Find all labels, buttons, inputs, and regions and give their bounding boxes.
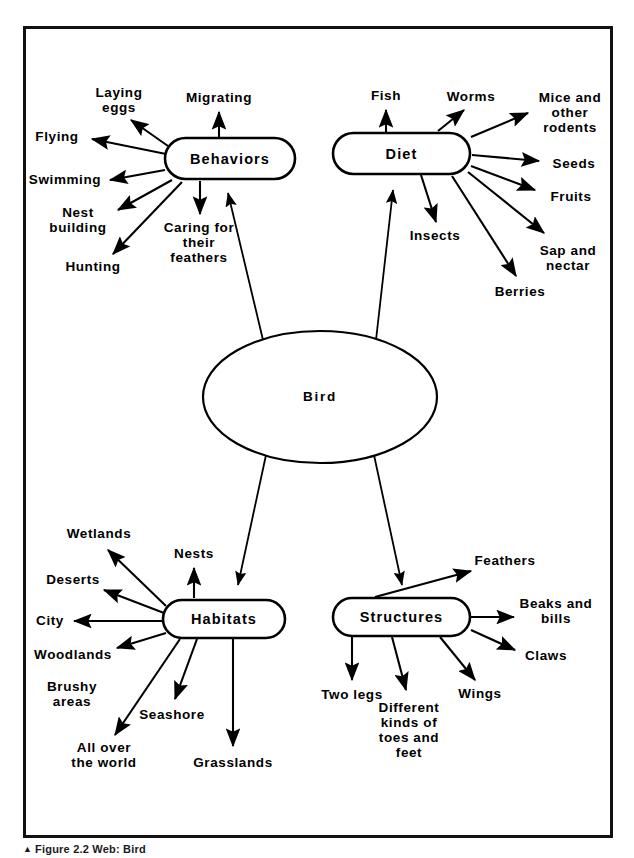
leaf-label-brushy: Brushy areas bbox=[47, 679, 97, 709]
branch-label-structures: Structures bbox=[360, 609, 444, 625]
leaf-label-feathers: Feathers bbox=[474, 553, 535, 568]
diagram-frame bbox=[23, 26, 613, 838]
figure-page: BirdBehaviorsLaying eggsMigratingFlyingS… bbox=[0, 0, 634, 858]
leaf-label-flying: Flying bbox=[35, 129, 78, 144]
leaf-label-city: City bbox=[36, 613, 64, 628]
leaf-label-nests: Nests bbox=[174, 546, 214, 561]
leaf-label-berries: Berries bbox=[495, 284, 546, 299]
branch-label-habitats: Habitats bbox=[191, 611, 257, 627]
leaf-label-all-over: All over the world bbox=[71, 740, 136, 770]
leaf-label-sap: Sap and nectar bbox=[540, 243, 597, 273]
leaf-label-seashore: Seashore bbox=[139, 707, 205, 722]
leaf-label-nest-building: Nest building bbox=[49, 205, 106, 235]
leaf-label-toes: Different kinds of toes and feet bbox=[379, 700, 440, 760]
leaf-label-swimming: Swimming bbox=[29, 172, 101, 187]
leaf-label-seeds: Seeds bbox=[553, 156, 596, 171]
leaf-label-wetlands: Wetlands bbox=[67, 526, 132, 541]
leaf-label-beaks: Beaks and bills bbox=[520, 596, 593, 626]
leaf-label-woodlands: Woodlands bbox=[34, 647, 112, 662]
leaf-label-two-legs: Two legs bbox=[321, 687, 383, 702]
leaf-label-laying-eggs: Laying eggs bbox=[95, 85, 142, 115]
caption-marker-icon: ▲ bbox=[23, 844, 32, 854]
center-node-label: Bird bbox=[303, 389, 337, 404]
leaf-label-claws: Claws bbox=[525, 648, 567, 663]
branch-label-diet: Diet bbox=[386, 145, 418, 161]
figure-caption: ▲Figure 2.2 Web: Bird bbox=[23, 843, 146, 855]
leaf-label-wings: Wings bbox=[458, 686, 501, 701]
leaf-label-migrating: Migrating bbox=[186, 90, 252, 105]
leaf-label-worms: Worms bbox=[447, 89, 496, 104]
leaf-label-insects: Insects bbox=[410, 228, 461, 243]
leaf-label-mice: Mice and other rodents bbox=[539, 90, 602, 135]
leaf-label-grasslands: Grasslands bbox=[193, 755, 273, 770]
leaf-label-caring: Caring for their feathers bbox=[164, 220, 235, 265]
leaf-label-hunting: Hunting bbox=[65, 259, 120, 274]
leaf-label-fish: Fish bbox=[371, 88, 401, 103]
branch-label-behaviors: Behaviors bbox=[190, 150, 270, 166]
caption-text: Figure 2.2 Web: Bird bbox=[35, 843, 146, 855]
leaf-label-deserts: Deserts bbox=[46, 572, 100, 587]
leaf-label-fruits: Fruits bbox=[550, 189, 591, 204]
